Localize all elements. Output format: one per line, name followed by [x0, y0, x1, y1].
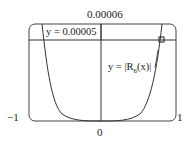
curve-label-suffix: (x)|	[137, 61, 151, 72]
plot-area	[0, 0, 188, 144]
x-min-tick-label: −1	[7, 112, 19, 123]
plot-frame	[29, 24, 176, 121]
y-max-tick-label: 0.00006	[87, 9, 123, 20]
x-zero-tick-label: 0	[97, 127, 103, 138]
hline-annotation: y = 0.00005	[46, 26, 97, 37]
curve-label-prefix: y = |R	[108, 61, 134, 72]
x-max-tick-label: 1	[177, 112, 183, 123]
curve-annotation: y = |R6(x)|	[108, 61, 151, 77]
